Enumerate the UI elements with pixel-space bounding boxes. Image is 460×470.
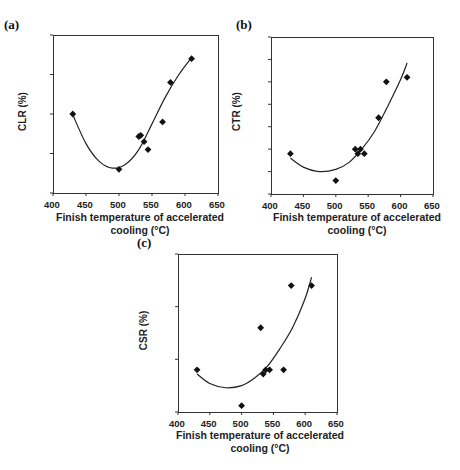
data-point-marker [238,402,245,409]
x-tick-label: 450 [201,418,217,429]
chart-svg [0,0,460,470]
x-tick-label: 650 [328,418,344,429]
data-point-marker [266,366,273,373]
data-point-marker [308,282,315,289]
x-tick-label: 550 [264,418,280,429]
x-tick-label: 600 [296,418,312,429]
data-point-marker [280,366,287,373]
data-point-marker [288,282,295,289]
data-point-marker [257,324,264,331]
x-tick-label: 500 [233,418,249,429]
trendline [197,277,311,388]
x-tick-label: 400 [169,418,185,429]
data-point-marker [194,366,201,373]
